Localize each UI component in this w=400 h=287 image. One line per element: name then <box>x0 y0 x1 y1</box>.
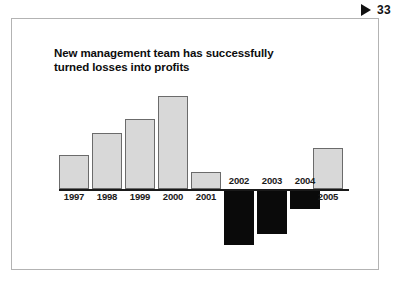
bar-2003 <box>257 191 287 234</box>
bar-chart-plot-area: 1997 1998 1999 2000 2001 2002 2003 2004 … <box>12 19 380 271</box>
axis-label-2003: 2003 <box>256 175 288 186</box>
play-triangle-icon <box>361 4 371 16</box>
bar-2000 <box>158 96 188 189</box>
bar-2001 <box>191 172 221 189</box>
bar-1997 <box>59 155 89 189</box>
page-marker: 33 <box>361 2 391 18</box>
axis-label-1998: 1998 <box>91 191 123 202</box>
axis-label-2004: 2004 <box>289 175 321 186</box>
axis-label-2001: 2001 <box>190 191 222 202</box>
bar-2002 <box>224 191 254 245</box>
axis-label-1997: 1997 <box>58 191 90 202</box>
bar-1998 <box>92 133 122 189</box>
page-number: 33 <box>377 4 391 16</box>
slide-frame: New management team has successfully tur… <box>11 18 379 270</box>
axis-label-2000: 2000 <box>157 191 189 202</box>
bar-1999 <box>125 119 155 189</box>
axis-label-2005: 2005 <box>312 191 344 202</box>
axis-label-1999: 1999 <box>124 191 156 202</box>
axis-label-2002: 2002 <box>223 175 255 186</box>
